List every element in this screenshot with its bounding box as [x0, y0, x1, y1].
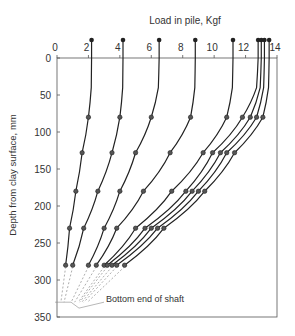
data-marker	[143, 226, 147, 230]
data-marker	[80, 151, 84, 155]
data-marker	[155, 226, 159, 230]
data-marker	[115, 226, 119, 230]
x-tick-label: 12	[238, 42, 250, 53]
x-tick-label: 4	[115, 42, 121, 53]
data-marker	[86, 115, 90, 119]
x-tick-label: 6	[147, 42, 153, 53]
y-tick-label: 50	[40, 90, 52, 101]
load-curve	[125, 40, 270, 265]
data-marker	[210, 151, 214, 155]
data-marker	[232, 151, 236, 155]
x-tick-label: 10	[207, 42, 219, 53]
data-marker	[82, 226, 86, 230]
load-curve	[66, 40, 92, 265]
data-marker	[190, 189, 194, 193]
data-marker	[218, 151, 222, 155]
top-load-marker	[89, 38, 94, 43]
shaft-extension	[75, 267, 97, 303]
top-load-marker	[231, 38, 236, 43]
data-marker	[248, 115, 252, 119]
y-tick-label: 200	[34, 201, 51, 212]
data-marker	[254, 115, 258, 119]
bottom-end-annotation: Bottom end of shaft	[106, 294, 185, 304]
x-tick-label: 14	[269, 42, 281, 53]
data-marker	[110, 151, 114, 155]
depth-load-chart: Load in pile, Kgf Depth from clay surfac…	[0, 0, 295, 336]
data-marker	[188, 115, 192, 119]
annotation-leader	[55, 302, 104, 308]
top-load-marker	[267, 38, 272, 43]
data-marker	[118, 115, 122, 119]
shaft-extension	[64, 267, 73, 303]
data-marker	[184, 189, 188, 193]
y-tick-label: 0	[45, 53, 51, 64]
top-load-marker	[262, 38, 267, 43]
data-marker	[102, 226, 106, 230]
data-marker	[225, 151, 229, 155]
data-marker	[201, 151, 205, 155]
data-marker	[96, 189, 100, 193]
shaft-extension	[61, 267, 66, 303]
top-load-marker	[157, 38, 162, 43]
data-marker	[133, 226, 137, 230]
x-axis-label: Load in pile, Kgf	[149, 15, 221, 26]
data-marker	[149, 115, 153, 119]
data-marker	[203, 189, 207, 193]
x-tick-label: 0	[52, 42, 58, 53]
data-marker	[118, 189, 122, 193]
y-tick-label: 300	[34, 275, 51, 286]
data-marker	[74, 189, 78, 193]
x-tick-label: 2	[84, 42, 90, 53]
data-marker	[240, 115, 244, 119]
top-load-marker	[121, 38, 126, 43]
y-tick-label: 350	[34, 312, 51, 323]
y-tick-label: 250	[34, 238, 51, 249]
data-marker	[261, 115, 265, 119]
shaft-extension	[71, 267, 88, 303]
data-marker	[225, 115, 229, 119]
y-tick-label: 150	[34, 164, 51, 175]
shaft-extension	[80, 267, 108, 303]
plot-area: 02468101214050100150200250300350	[34, 38, 281, 323]
load-curve	[117, 40, 265, 265]
data-marker	[141, 189, 145, 193]
y-tick-label: 100	[34, 127, 51, 138]
top-load-marker	[193, 38, 198, 43]
chart-container: Load in pile, Kgf Depth from clay surfac…	[0, 0, 295, 336]
data-marker	[170, 189, 174, 193]
data-marker	[162, 226, 166, 230]
x-tick-label: 8	[178, 42, 184, 53]
data-marker	[196, 189, 200, 193]
y-axis-label: Depth from clay surface, mm	[7, 114, 18, 236]
data-marker	[149, 226, 153, 230]
data-marker	[67, 226, 71, 230]
data-marker	[133, 151, 137, 155]
data-marker	[168, 151, 172, 155]
